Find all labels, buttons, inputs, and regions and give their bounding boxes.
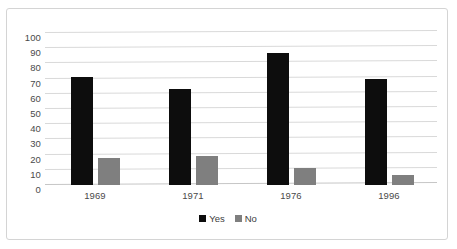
legend-item-yes[interactable]: Yes [199,214,225,224]
bar-no-1969[interactable] [98,158,120,185]
legend-label: No [245,214,257,224]
x-axis-tick-label-1969: 1969 [65,191,125,201]
x-axis-tick-label-1996: 1996 [359,191,419,201]
legend-swatch-icon-yes [199,215,206,222]
bar-yes-1971[interactable] [169,89,191,185]
plot-area [45,33,437,185]
bar-no-1971[interactable] [196,156,218,185]
bar-yes-1969[interactable] [71,77,93,185]
legend-label: Yes [209,214,225,224]
x-axis-tick-label-1976: 1976 [261,191,321,201]
chart-legend: YesNo [7,214,449,224]
bar-no-1976[interactable] [294,168,316,185]
legend-item-no[interactable]: No [235,214,257,224]
x-axis: 1969197119761996 [45,191,437,207]
gridline-90 [45,45,437,48]
legend-swatch-icon-no [235,215,242,222]
x-axis-tick-label-1971: 1971 [163,191,223,201]
bar-no-1996[interactable] [392,175,414,185]
bar-yes-1976[interactable] [267,53,289,185]
bar-yes-1996[interactable] [365,79,387,185]
gridline-100 [45,30,437,33]
gridline-80 [45,60,437,63]
chart-frame: 0102030405060708090100 1969197119761996 … [6,8,448,240]
y-axis: 0102030405060708090100 [11,33,41,185]
